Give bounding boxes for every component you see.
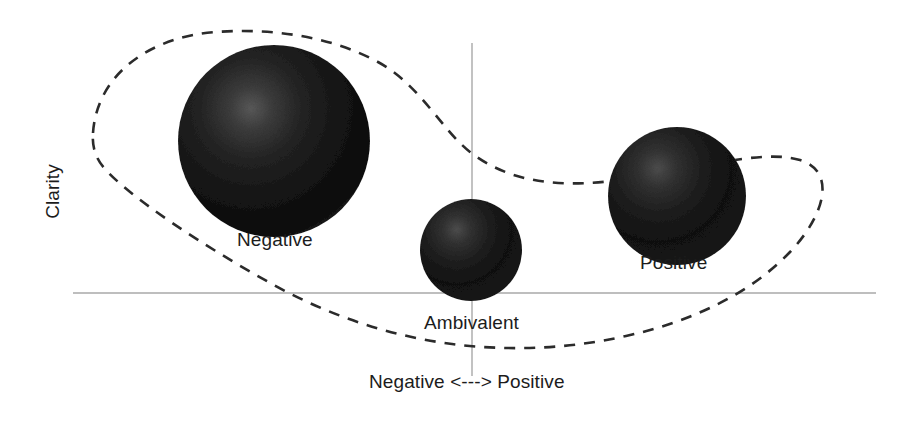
bubble-diagram-figure: Negative Ambivalent Positive Negative <-… bbox=[0, 0, 913, 422]
bubble-ambivalent[interactable] bbox=[420, 199, 522, 301]
bubble-positive[interactable] bbox=[608, 127, 746, 265]
bubble-negative[interactable] bbox=[178, 45, 370, 237]
y-axis-label: Clarity bbox=[43, 132, 62, 252]
bubble-label-positive: Positive bbox=[640, 253, 707, 272]
x-axis-label: Negative <---> Positive bbox=[369, 372, 565, 391]
diagram-canvas bbox=[0, 0, 913, 422]
bubble-label-ambivalent: Ambivalent bbox=[424, 313, 519, 332]
bubble-label-negative: Negative bbox=[237, 230, 313, 249]
